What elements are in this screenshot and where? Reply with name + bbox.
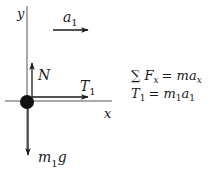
free-body-diagram: y x a1 N T1 m1g ∑ Fx= max T1= m1a1 [0, 0, 224, 174]
mass-point [20, 95, 34, 109]
equation-newton-second-law: ∑ Fx= max [131, 68, 202, 85]
acceleration-label: a1 [63, 9, 78, 28]
x-axis-label: x [104, 106, 112, 121]
equation-tension: T1= m1a1 [131, 86, 195, 103]
normal-force-label: N [37, 67, 51, 83]
weight-label: m1g [38, 149, 67, 169]
tension-label: T1 [80, 78, 96, 97]
y-axis-label: y [16, 6, 25, 21]
